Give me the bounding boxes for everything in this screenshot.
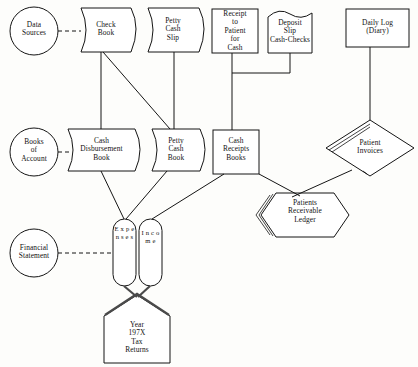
connector-petty-cash-book-expenses bbox=[126, 171, 167, 219]
shape-patient-invoices bbox=[326, 120, 414, 176]
shape-books-of-account bbox=[10, 128, 58, 176]
connector-expenses-tax-returns bbox=[124, 286, 137, 297]
connector-cash-disbursement-book-expenses bbox=[101, 171, 124, 219]
shape-daily-log bbox=[346, 9, 409, 47]
connector-income-tax-returns bbox=[138, 286, 150, 297]
shape-income bbox=[139, 219, 162, 286]
shape-data-sources bbox=[10, 7, 58, 55]
shape-tax-returns bbox=[104, 295, 170, 363]
shape-expenses bbox=[113, 219, 136, 286]
shape-petty-cash-book bbox=[152, 129, 205, 171]
connector-check-book-petty-cash-book bbox=[103, 52, 170, 129]
flowchart-canvas: Data Sources Books of Account Financial … bbox=[0, 0, 418, 367]
shape-financial-statement bbox=[10, 229, 58, 277]
flowchart-shapes-layer bbox=[0, 0, 418, 367]
shape-check-book bbox=[81, 8, 136, 52]
shape-petty-cash-slip bbox=[148, 8, 204, 52]
connector-cash-receipts-books-income bbox=[152, 174, 224, 219]
connector-deposit-slip-cash-receipts-books bbox=[232, 53, 290, 73]
shape-patients-receivable-ledger bbox=[261, 193, 349, 237]
shape-receipt-to-patient bbox=[212, 9, 258, 53]
shape-deposit-slip bbox=[268, 11, 312, 53]
shape-cash-receipts-books bbox=[213, 130, 259, 174]
shape-cash-disbursement-book bbox=[68, 129, 140, 171]
